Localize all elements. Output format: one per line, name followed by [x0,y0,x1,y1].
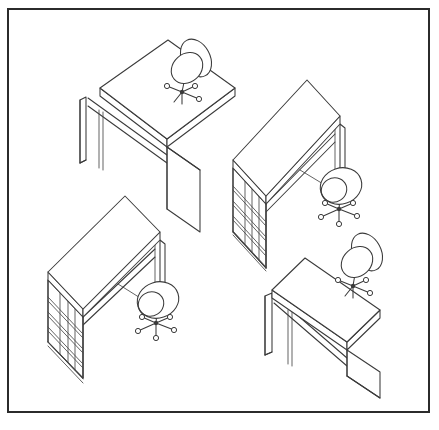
chair-caster-2 [167,314,172,319]
chair-base-hub [351,284,355,288]
chair-caster-3 [367,290,372,295]
chair-base-hub [154,321,158,325]
chair-caster-1 [322,200,327,205]
chair-caster-1 [164,83,169,88]
chair-caster-1 [335,277,340,282]
illustration-root: Office Desk and Chair Workstations Isome… [0,0,439,430]
chair-caster-5 [153,335,158,340]
isometric-line-drawing [0,0,439,430]
desk-left-panel-leg [80,97,86,163]
chair-caster-3 [171,327,176,332]
chair-caster-4 [135,328,140,333]
chair-caster-4 [318,214,323,219]
chair-caster-2 [350,200,355,205]
chair-caster-3 [196,96,201,101]
page-background [0,0,439,430]
chair-caster-2 [363,277,368,282]
chair-caster-5 [336,221,341,226]
chair-caster-3 [354,213,359,218]
desk-left-panel-leg [265,293,272,355]
chair-base-hub [180,90,184,94]
chair-caster-1 [139,314,144,319]
chair-base-hub [337,207,341,211]
chair-caster-2 [192,83,197,88]
